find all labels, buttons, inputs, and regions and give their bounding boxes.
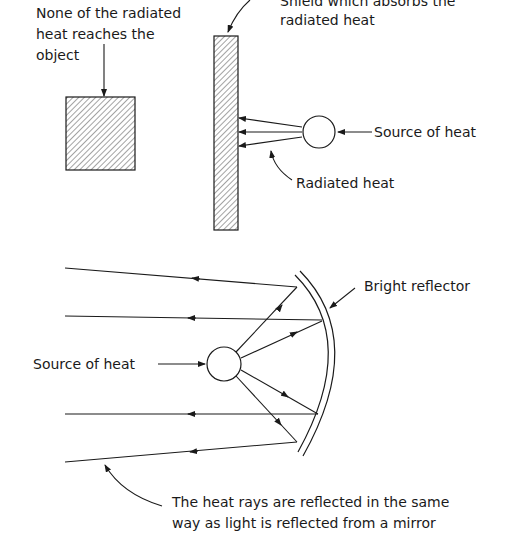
caption-line1: The heat rays are reflected in the same [171, 494, 449, 510]
shield-panel [214, 36, 238, 230]
object-note-line3: object [36, 47, 80, 63]
ray-arrowhead [282, 393, 288, 397]
reflected-ray [65, 442, 297, 462]
shield-label-line1: Shield which absorbs the [280, 0, 455, 9]
ray-arrowhead [291, 332, 297, 335]
reflector-diagram: Bright reflector Source of heat The heat… [33, 268, 470, 531]
heat-source-circle [207, 347, 241, 381]
source-label: Source of heat [33, 356, 136, 372]
object-note-line1: None of the radiated [36, 5, 181, 21]
shield-diagram: None of the radiated heat reaches the ob… [36, 0, 477, 230]
reflector-inner-arc [295, 275, 328, 452]
radiated-ray [239, 137, 302, 146]
incident-ray [241, 321, 322, 358]
radiated-ray [239, 118, 302, 127]
ray-arrowhead [277, 420, 281, 425]
reflected-ray [65, 268, 297, 287]
heat-source-circle [303, 116, 335, 148]
radiated-pointer-arrow [271, 151, 292, 180]
radiated-label: Radiated heat [296, 175, 395, 191]
caption-pointer-arrow [105, 465, 162, 506]
incident-ray [236, 376, 297, 442]
object-note-line2: heat reaches the [36, 26, 155, 42]
incident-ray [241, 370, 318, 414]
object-box [66, 97, 135, 170]
shield-pointer-arrow [228, 0, 250, 32]
caption-line2: way as light is reflected from a mirror [172, 515, 436, 531]
source-label: Source of heat [374, 124, 477, 140]
reflector-pointer-arrow [330, 288, 355, 308]
shield-label-line2: radiated heat [280, 12, 375, 28]
reflector-outer-arc [300, 271, 335, 456]
heat-radiation-diagram: None of the radiated heat reaches the ob… [0, 0, 512, 543]
reflector-label: Bright reflector [364, 278, 470, 294]
